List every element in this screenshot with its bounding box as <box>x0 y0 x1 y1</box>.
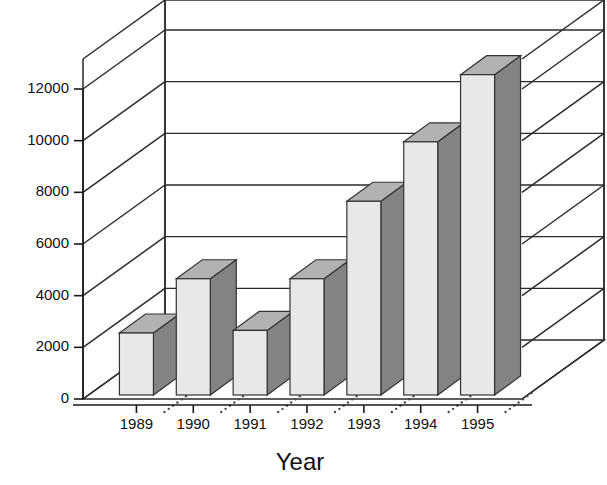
right-side-wall <box>522 0 604 399</box>
bar-front-face <box>347 201 381 395</box>
depth-rib-4000 <box>83 237 165 296</box>
y-tick-label-10000: 10000 <box>27 131 69 148</box>
base-dot <box>277 411 279 413</box>
base-dot <box>281 408 283 410</box>
y-tick-label-12000: 12000 <box>27 79 69 96</box>
y-tick-label-0: 0 <box>61 389 69 406</box>
base-dot <box>517 401 519 403</box>
bar-side-face <box>438 123 464 395</box>
bar-side-face <box>381 182 407 395</box>
base-dot <box>224 408 226 410</box>
y-tick-label-8000: 8000 <box>36 182 69 199</box>
bar-chart-3d: 020004000600080001000012000 198919901991… <box>0 0 607 485</box>
bar-side-face <box>324 260 350 395</box>
bar-front-face <box>404 142 438 395</box>
bar-front-face <box>119 333 153 395</box>
x-tick-label-1995: 1995 <box>461 415 494 432</box>
base-dot <box>465 398 467 400</box>
base-dot <box>408 398 410 400</box>
right-wall-line-4000 <box>522 237 604 296</box>
right-wall-line-8000 <box>522 133 604 192</box>
depth-rib-top <box>83 0 165 59</box>
base-dot <box>233 401 235 403</box>
base-dot <box>237 398 239 400</box>
bar-1992 <box>290 260 350 395</box>
y-axis: 020004000600080001000012000 <box>27 79 83 406</box>
x-tick-label-1991: 1991 <box>233 415 266 432</box>
base-dot <box>347 401 349 403</box>
y-tick-label-4000: 4000 <box>36 286 69 303</box>
x-tick-label-1993: 1993 <box>347 415 380 432</box>
depth-rib-12000 <box>83 30 165 89</box>
right-wall-line-6000 <box>522 185 604 244</box>
bar-side-face <box>495 56 521 395</box>
base-dot <box>504 411 506 413</box>
base-dot <box>395 408 397 410</box>
x-tick-label-1992: 1992 <box>290 415 323 432</box>
base-dot <box>509 408 511 410</box>
right-wall-line-10000 <box>522 82 604 141</box>
base-dot <box>526 395 528 397</box>
base-dot <box>338 408 340 410</box>
base-dot <box>391 411 393 413</box>
bar-front-face <box>290 279 324 395</box>
x-axis-title: Year <box>276 448 325 475</box>
base-dot <box>530 392 532 394</box>
bar-1990 <box>176 260 236 395</box>
y-tick-label-2000: 2000 <box>36 337 69 354</box>
base-dot <box>404 401 406 403</box>
x-axis: 1989199019911992199319941995 <box>73 405 532 432</box>
base-dot <box>220 411 222 413</box>
depth-rib-10000 <box>83 82 165 141</box>
base-dot <box>168 408 170 410</box>
base-dot <box>334 411 336 413</box>
depth-rib-8000 <box>83 133 165 192</box>
base-dot <box>294 398 296 400</box>
right-wall-line-2000 <box>522 288 604 347</box>
bar-1994 <box>404 123 464 395</box>
x-tick-label-1989: 1989 <box>120 415 153 432</box>
base-dot <box>351 398 353 400</box>
base-dot <box>452 408 454 410</box>
base-dot <box>522 398 524 400</box>
right-wall-line-12000 <box>522 30 604 89</box>
bar-1995 <box>461 56 521 395</box>
x-tick-label-1990: 1990 <box>177 415 210 432</box>
bar-1989 <box>119 314 179 395</box>
bar-1991 <box>233 311 293 395</box>
base-dot <box>448 411 450 413</box>
bar-front-face <box>461 75 495 395</box>
bar-front-face <box>176 279 210 395</box>
bar-side-face <box>210 260 236 395</box>
bar-front-face <box>233 330 267 395</box>
bar-group <box>119 56 520 395</box>
y-tick-label-6000: 6000 <box>36 234 69 251</box>
bar-1993 <box>347 182 407 395</box>
base-dot <box>176 401 178 403</box>
depth-rib-6000 <box>83 185 165 244</box>
base-dot <box>163 411 165 413</box>
base-dot <box>461 401 463 403</box>
base-dot <box>181 398 183 400</box>
x-tick-label-1994: 1994 <box>404 415 437 432</box>
base-dot <box>290 401 292 403</box>
chart-canvas: 020004000600080001000012000 198919901991… <box>0 0 607 485</box>
